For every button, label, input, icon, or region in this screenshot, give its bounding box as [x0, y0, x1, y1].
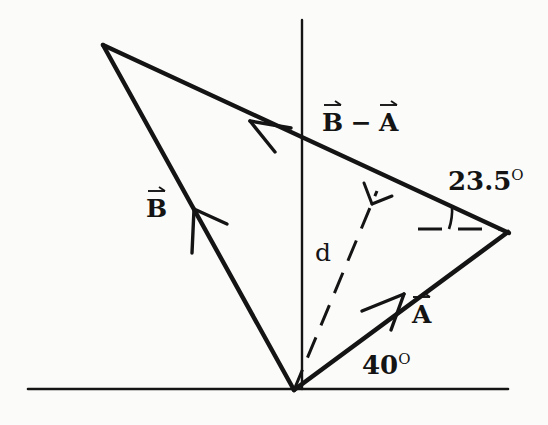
- label-distance-d: d: [315, 240, 331, 265]
- label-vector-b-text: B: [146, 194, 168, 223]
- label-vector-b: B: [146, 196, 168, 221]
- label-minus-operator: −: [344, 110, 379, 135]
- label-vector-a-stack: A: [412, 302, 432, 327]
- label-vector-a: A: [412, 302, 432, 327]
- vector-diagram-figure: B − A B A: [0, 0, 548, 425]
- label-a-text: A: [379, 108, 399, 137]
- vector-arrow-icon: [412, 291, 432, 301]
- label-angle-lower-value: 40: [362, 350, 398, 380]
- label-angle-lower-unit: O: [398, 350, 410, 368]
- label-b-text: B: [322, 108, 344, 137]
- vector-arrow-icon: [323, 99, 343, 109]
- label-b-minus-a-first-term: B: [322, 110, 344, 135]
- label-angle-upper-unit: O: [511, 166, 523, 184]
- right-angle-marker-icon: [364, 183, 392, 204]
- vector-arrow-icon: [147, 185, 167, 195]
- vector-arrow-icon: [379, 99, 399, 109]
- label-angle-upper: 23.5O: [448, 168, 524, 194]
- label-b-minus-a-second-term: A: [379, 110, 399, 135]
- label-vector-b-minus-a: B − A: [322, 110, 399, 135]
- label-vector-b-stack: B: [146, 196, 168, 221]
- diagram-canvas: [0, 0, 548, 425]
- vector-b-line: [103, 45, 294, 390]
- label-vector-a-text: A: [412, 300, 432, 329]
- angle-arc-upper: [449, 206, 452, 229]
- label-angle-upper-value: 23.5: [448, 166, 511, 196]
- label-angle-lower: 40O: [362, 352, 411, 378]
- vector-b-minus-a-arrowhead-icon: [250, 121, 291, 152]
